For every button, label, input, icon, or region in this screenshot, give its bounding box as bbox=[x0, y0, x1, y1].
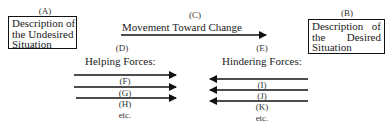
box-b-line-1: Description of bbox=[312, 21, 381, 32]
hindering-etc: etc. bbox=[247, 113, 277, 123]
marker-b: (B) bbox=[332, 8, 362, 18]
helping-force-g-label: (G) bbox=[110, 88, 140, 98]
movement-label: Movement Toward Change bbox=[122, 21, 242, 33]
desired-situation-box: Description of the Desired Situation bbox=[308, 19, 385, 54]
helping-forces-heading: Helping Forces: bbox=[85, 55, 156, 67]
hindering-force-i-label: (I) bbox=[247, 80, 277, 90]
helping-force-f-label: (F) bbox=[110, 76, 140, 86]
marker-c: (C) bbox=[180, 10, 210, 20]
hindering-force-k-label: (K) bbox=[247, 102, 277, 112]
marker-e: (E) bbox=[247, 43, 277, 53]
hindering-force-j-label: (J) bbox=[247, 91, 277, 101]
helping-etc: etc. bbox=[110, 110, 140, 120]
helping-force-h-label: (H) bbox=[110, 99, 140, 109]
box-a-line-3: Situation bbox=[12, 39, 73, 50]
hindering-forces-heading: Hindering Forces: bbox=[222, 55, 302, 67]
box-a-line-1: Description of bbox=[12, 18, 73, 29]
box-b-line-3: Situation bbox=[312, 42, 381, 53]
marker-a: (A) bbox=[30, 6, 60, 16]
marker-d: (D) bbox=[107, 43, 137, 53]
undesired-situation-box: Description of the Undesired Situation bbox=[8, 16, 77, 49]
